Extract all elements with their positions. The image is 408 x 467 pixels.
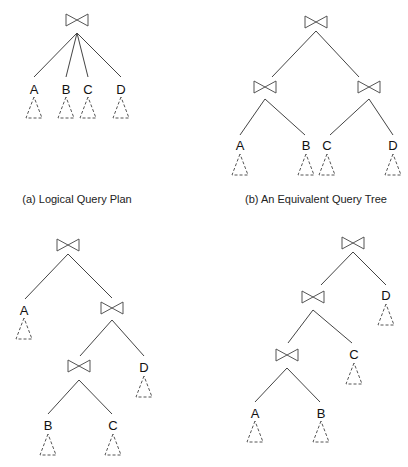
join-icon xyxy=(254,81,276,93)
leaf-label-d: D xyxy=(139,360,148,375)
subtree-triangle-icon xyxy=(26,97,42,118)
caption-b: (b) An Equivalent Query Tree xyxy=(245,193,387,205)
join-icon xyxy=(342,237,364,249)
subtree-triangle-icon xyxy=(58,97,74,118)
join-icon xyxy=(358,81,380,93)
subtree-triangle-icon xyxy=(232,154,248,175)
subtree-triangle-icon xyxy=(80,97,96,118)
join-icon xyxy=(276,349,298,361)
subtree-triangle-icon xyxy=(385,154,401,175)
subtree-triangle-icon xyxy=(298,154,314,175)
query-plan-diagram: A B C D (a) Logical Query Plan A B C D (… xyxy=(0,0,408,467)
panel-a-logical-query-plan: A B C D (a) Logical Query Plan xyxy=(22,14,131,205)
join-icon xyxy=(302,291,324,303)
panel-d-left-deep-tree: D C A B xyxy=(247,237,394,442)
subtree-triangle-icon xyxy=(16,318,32,339)
leaf-label-c: C xyxy=(322,138,331,153)
subtree-triangle-icon xyxy=(40,434,56,455)
leaf-label-c: C xyxy=(108,418,117,433)
join-icon xyxy=(57,239,79,251)
join-icon xyxy=(66,14,88,26)
leaf-label-a: A xyxy=(236,138,245,153)
leaf-label-b: B xyxy=(62,82,71,97)
leaf-label-a: A xyxy=(30,82,39,97)
leaf-label-c: C xyxy=(83,82,92,97)
leaf-label-d: D xyxy=(388,138,397,153)
subtree-triangle-icon xyxy=(105,434,121,455)
subtree-triangle-icon xyxy=(313,421,329,442)
panel-b-equivalent-query-tree: A B C D (b) An Equivalent Query Tree xyxy=(232,16,401,205)
join-icon xyxy=(305,16,327,28)
panel-c-right-deep-tree: A D B C xyxy=(16,239,152,455)
leaf-label-b: B xyxy=(317,406,326,421)
subtree-triangle-icon xyxy=(346,363,362,384)
join-icon xyxy=(101,302,123,314)
leaf-label-b: B xyxy=(44,418,53,433)
leaf-label-d: D xyxy=(116,82,125,97)
leaf-label-b: B xyxy=(302,138,311,153)
leaf-label-c: C xyxy=(349,347,358,362)
leaf-label-d: D xyxy=(381,288,390,303)
leaf-label-a: A xyxy=(20,303,29,318)
subtree-triangle-icon xyxy=(319,154,335,175)
caption-a: (a) Logical Query Plan xyxy=(22,193,131,205)
leaf-label-a: A xyxy=(251,406,260,421)
subtree-triangle-icon xyxy=(136,376,152,397)
subtree-triangle-icon xyxy=(113,97,129,118)
subtree-triangle-icon xyxy=(378,304,394,325)
subtree-triangle-icon xyxy=(247,421,263,442)
join-icon xyxy=(68,360,90,372)
